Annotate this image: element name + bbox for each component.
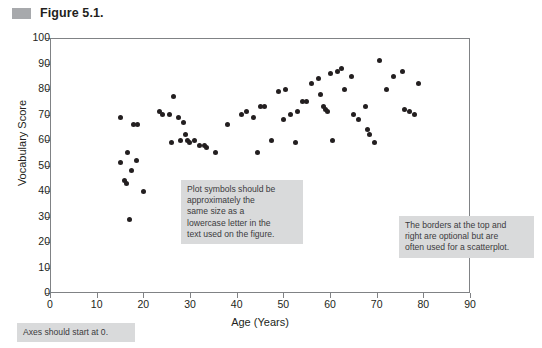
callout-axes: Axes should start at 0. bbox=[17, 323, 135, 342]
y-tick-label-text: 100 bbox=[24, 32, 50, 43]
callout-borders: The borders at the top andright are opti… bbox=[399, 216, 534, 258]
data-point bbox=[351, 112, 356, 117]
data-point bbox=[318, 92, 323, 97]
x-tick-label: 20 bbox=[128, 298, 158, 310]
x-tick-label: 40 bbox=[222, 298, 252, 310]
y-tick-label: 100 bbox=[0, 32, 50, 43]
scatterplot: 0102030405060708090100010203040506070809… bbox=[0, 0, 542, 348]
data-point bbox=[328, 71, 333, 76]
callout-line: The borders at the top and bbox=[405, 220, 528, 231]
callout-line: approximately the bbox=[187, 195, 297, 206]
data-point bbox=[363, 104, 368, 109]
x-tick-label: 10 bbox=[82, 298, 112, 310]
data-point bbox=[239, 112, 244, 117]
data-point bbox=[356, 117, 361, 122]
callout-line: often used for a scatterplot. bbox=[405, 242, 528, 253]
y-tick-label-text: 10 bbox=[24, 262, 50, 273]
data-point bbox=[124, 181, 129, 186]
callout-line: lowercase letter in the bbox=[187, 218, 297, 229]
y-tick-label-text: 0 bbox=[24, 287, 50, 298]
y-tick-label: 10 bbox=[0, 262, 50, 273]
y-tick-label: 0 bbox=[0, 287, 50, 298]
data-point bbox=[204, 145, 209, 150]
y-tick-label: 20 bbox=[0, 236, 50, 247]
data-point bbox=[372, 140, 377, 145]
data-point bbox=[330, 138, 335, 143]
data-point bbox=[349, 74, 354, 79]
data-point bbox=[169, 140, 174, 145]
x-tick-label: 30 bbox=[175, 298, 205, 310]
data-point bbox=[141, 189, 146, 194]
data-point bbox=[178, 138, 183, 143]
data-point bbox=[288, 112, 293, 117]
y-tick-label-text: 20 bbox=[24, 236, 50, 247]
data-point bbox=[400, 69, 405, 74]
data-point bbox=[134, 158, 139, 163]
x-tick-label: 50 bbox=[268, 298, 298, 310]
x-tick-label: 0 bbox=[35, 298, 65, 310]
y-axis-title: Vocabulary Score bbox=[16, 58, 28, 228]
data-point bbox=[281, 117, 286, 122]
callout-line: same size as a bbox=[187, 206, 297, 217]
data-point bbox=[176, 115, 181, 120]
data-point bbox=[181, 120, 186, 125]
callout-line: Axes should start at 0. bbox=[23, 327, 129, 338]
data-point bbox=[187, 140, 192, 145]
x-tick-label: 90 bbox=[455, 298, 485, 310]
data-point bbox=[118, 115, 123, 120]
data-point bbox=[384, 87, 389, 92]
data-point bbox=[293, 140, 298, 145]
callout-line: text used on the figure. bbox=[187, 229, 297, 240]
data-point bbox=[225, 122, 230, 127]
callout-line: right are optional but are bbox=[405, 231, 528, 242]
data-point bbox=[391, 74, 396, 79]
data-point bbox=[342, 87, 347, 92]
data-point bbox=[283, 87, 288, 92]
callout-plot-symbols: Plot symbols should beapproximately thes… bbox=[181, 180, 303, 244]
data-point bbox=[269, 138, 274, 143]
x-tick-label: 80 bbox=[408, 298, 438, 310]
data-point bbox=[127, 217, 132, 222]
data-point bbox=[192, 138, 197, 143]
data-point bbox=[167, 112, 172, 117]
x-tick-label: 70 bbox=[362, 298, 392, 310]
x-tick-label: 60 bbox=[315, 298, 345, 310]
data-point bbox=[251, 115, 256, 120]
data-point bbox=[412, 112, 417, 117]
data-point bbox=[125, 150, 130, 155]
callout-line: Plot symbols should be bbox=[187, 184, 297, 195]
